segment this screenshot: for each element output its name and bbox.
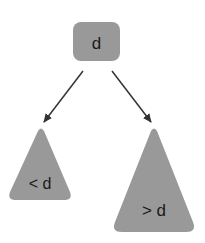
tree-diagram: d < d > d <box>0 0 205 243</box>
left-edge-arrow <box>44 71 83 122</box>
left-subtree-label: < d <box>29 175 52 192</box>
right-subtree-label: > d <box>142 201 166 220</box>
right-edge-arrow <box>112 71 151 122</box>
right-subtree-triangle: > d <box>114 129 194 233</box>
root-node-label: d <box>92 34 101 53</box>
left-subtree-triangle: < d <box>9 129 71 201</box>
root-node: d <box>73 22 120 61</box>
